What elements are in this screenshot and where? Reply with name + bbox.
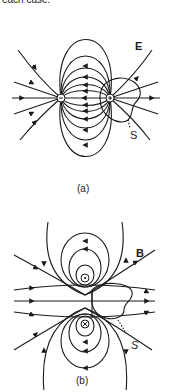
magnetic-field-label: B bbox=[136, 247, 144, 259]
surface-label-b: S bbox=[131, 339, 138, 351]
figure-a-caption: (a) bbox=[77, 183, 89, 194]
electric-field-label: E bbox=[135, 40, 142, 52]
surface-label-a: S bbox=[130, 129, 137, 141]
figure-b-caption: (b) bbox=[76, 375, 88, 386]
magnetic-field-figure bbox=[0, 210, 170, 390]
electric-dipole-figure bbox=[0, 0, 170, 210]
